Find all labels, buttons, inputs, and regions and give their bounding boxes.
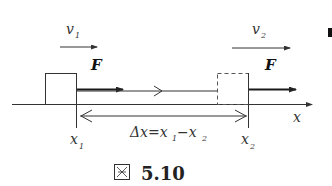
svg-text:Δx=x: Δx=x bbox=[129, 124, 168, 140]
force-label-left: F bbox=[90, 56, 103, 74]
x2-label: x bbox=[241, 131, 249, 147]
v2-label: v bbox=[252, 21, 260, 37]
x2-subscript: 2 bbox=[249, 142, 255, 151]
delta-x-label: Δx=x 1 −x 2 bbox=[129, 124, 207, 143]
displacement-double-arrow bbox=[80, 110, 247, 122]
x1-label: x bbox=[70, 131, 78, 147]
work-energy-diagram: v 1 v 2 F F x Δx=x 1 −x 2 x 1 bbox=[0, 0, 332, 186]
x1-subscript: 1 bbox=[79, 142, 84, 151]
v1-label: v bbox=[66, 21, 74, 37]
caption-number: 5.10 bbox=[141, 163, 185, 184]
block-initial bbox=[46, 74, 77, 105]
svg-text:−x: −x bbox=[177, 124, 197, 140]
axis-label: x bbox=[293, 109, 301, 125]
v1-subscript: 1 bbox=[75, 31, 80, 40]
figure-caption: 图 5.10 bbox=[115, 163, 185, 184]
cropped-edge-mark bbox=[328, 28, 332, 37]
svg-text:2: 2 bbox=[201, 134, 207, 143]
v2-subscript: 2 bbox=[260, 31, 266, 40]
velocity-v2: v 2 bbox=[232, 21, 290, 48]
force-label-right: F bbox=[264, 56, 277, 74]
velocity-v1: v 1 bbox=[60, 21, 97, 47]
block-final-dashed bbox=[218, 74, 249, 105]
